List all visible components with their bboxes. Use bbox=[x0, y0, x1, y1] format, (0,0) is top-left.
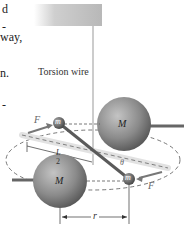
ceiling-plate bbox=[34, 4, 102, 26]
torsion-balance-diagram bbox=[0, 0, 184, 227]
large-mass-upper-label: M bbox=[118, 118, 126, 129]
separation-label: r bbox=[91, 210, 99, 221]
force-label-left: F bbox=[34, 114, 40, 125]
large-mass-lower-label: M bbox=[55, 175, 63, 186]
half-length-label-num: L bbox=[56, 148, 60, 157]
small-mass-lower-label: m bbox=[125, 173, 131, 182]
small-mass-upper-label: m bbox=[55, 117, 61, 126]
torsion-wire-label: Torsion wire bbox=[38, 66, 89, 77]
half-length-label-den: 2 bbox=[56, 157, 60, 166]
angle-label: θ bbox=[120, 158, 124, 167]
force-label-right: F bbox=[148, 180, 154, 191]
